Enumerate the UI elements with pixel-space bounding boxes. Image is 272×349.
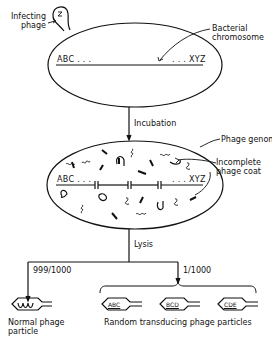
label-infecting-phage-line2: phage bbox=[4, 21, 46, 30]
label-random-transducing: Random transducing phage particles bbox=[104, 318, 252, 327]
label-incomplete-phage-coat: Incomplete phage coat bbox=[216, 158, 261, 176]
label-normal-line2: particle bbox=[8, 327, 65, 336]
particle-bcd-label: BCD bbox=[166, 301, 179, 308]
chromosome-end-fragmented: . . . XYZ bbox=[172, 175, 206, 184]
particle-abc-label: ABC bbox=[108, 301, 120, 308]
ratio-normal: 999/1000 bbox=[33, 266, 71, 275]
infecting-phage-icon bbox=[53, 7, 70, 31]
label-incubation: Incubation bbox=[134, 119, 176, 128]
normal-phage-particle-icon bbox=[12, 298, 52, 310]
chromosome-start-fragmented: ABC . . . bbox=[57, 175, 91, 184]
ratio-transducing: 1/1000 bbox=[183, 266, 211, 275]
label-bacterial-chromosome-line1: Bacterial bbox=[212, 24, 264, 33]
chromosome-end-top: . . . XYZ bbox=[172, 55, 206, 64]
label-infecting-phage-line1: Infecting bbox=[4, 12, 46, 21]
label-infecting-phage: Infecting phage bbox=[4, 12, 46, 30]
label-incomplete-coat-line1: Incomplete bbox=[216, 158, 261, 167]
label-bacterial-chromosome: Bacterial chromosome bbox=[212, 24, 264, 42]
particle-cde-label: CDE bbox=[224, 301, 237, 308]
label-incomplete-coat-line2: phage coat bbox=[216, 167, 261, 176]
label-normal-phage-particle: Normal phage particle bbox=[8, 318, 65, 336]
label-bacterial-chromosome-line2: chromosome bbox=[212, 33, 264, 42]
label-phage-genome: Phage genome bbox=[221, 135, 272, 144]
label-lysis: Lysis bbox=[134, 240, 153, 249]
label-normal-line1: Normal phage bbox=[8, 318, 65, 327]
chromosome-start-top: ABC . . . bbox=[57, 55, 91, 64]
